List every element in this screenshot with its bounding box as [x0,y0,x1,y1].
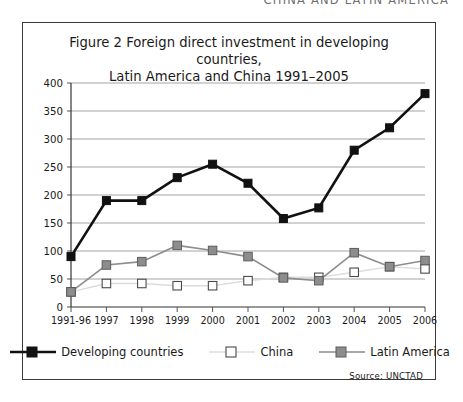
data-point-marker [386,124,394,132]
data-point-marker [138,257,147,266]
y-axis-tick-label: 0 [57,302,63,313]
data-point-marker [244,252,253,261]
data-point-marker [315,276,324,285]
x-axis-tick-label: 2006 [413,315,437,326]
data-point-marker [350,248,359,257]
data-point-marker [102,197,110,205]
x-axis-tick-label: 1998 [130,315,154,326]
figure-container: Figure 2 Foreign direct investment in de… [22,22,436,380]
x-axis-tick-label: 1997 [94,315,118,326]
data-point-marker [244,276,253,285]
x-axis-tick-label: 2002 [271,315,295,326]
y-axis-tick-label: 200 [44,190,63,201]
legend-label-developing-countries: Developing countries [61,345,183,359]
legend-swatch-latin-america [319,345,365,359]
y-axis-tick-label: 50 [50,274,63,285]
data-point-marker [208,246,217,255]
legend-item-china[interactable]: China [209,345,293,359]
plot-area: 0501001502002503003504001991-96199719981… [23,75,437,345]
data-point-marker [67,288,76,297]
data-point-marker [385,262,394,271]
legend-label-latin-america: Latin America [370,345,450,359]
data-point-marker [244,179,252,187]
data-point-marker [421,90,429,98]
figure-title-line-1: Figure 2 Foreign direct investment in de… [69,35,389,67]
y-axis-tick-label: 300 [44,134,63,145]
data-point-marker [173,241,182,250]
legend-label-china: China [260,345,293,359]
data-point-marker [138,197,146,205]
running-header: CHINA AND LATIN AMERICA [264,0,449,7]
data-point-marker [208,281,217,290]
x-axis-tick-label: 2000 [200,315,224,326]
x-axis-tick-label: 2004 [342,315,366,326]
chart-legend: Developing countries China Latin America [23,345,437,359]
legend-swatch-china [209,345,255,359]
data-point-marker [138,279,147,288]
y-axis-tick-label: 400 [44,78,63,89]
data-point-marker [350,146,358,154]
data-point-marker [279,274,288,283]
y-axis-tick-label: 350 [44,106,63,117]
data-point-marker [421,256,430,265]
legend-swatch-developing-countries [10,345,56,359]
y-axis-tick-label: 250 [44,162,63,173]
data-point-marker [102,279,111,288]
x-axis-tick-label: 2003 [307,315,331,326]
series-developing-countries [67,90,429,261]
data-point-marker [67,253,75,261]
x-axis-tick-label: 2005 [377,315,401,326]
data-point-marker [209,160,217,168]
source-note: Source: UNCTAD [349,371,423,381]
data-point-marker [102,261,111,270]
data-point-marker [421,265,430,274]
y-axis-tick-label: 100 [44,246,63,257]
data-point-marker [173,281,182,290]
series-line [71,94,425,257]
x-axis-tick-label: 1991-96 [51,315,91,326]
x-axis-tick-label: 1999 [165,315,189,326]
y-axis-tick-label: 150 [44,218,63,229]
data-point-marker [350,268,359,277]
legend-item-developing-countries[interactable]: Developing countries [10,345,183,359]
data-point-marker [279,215,287,223]
x-axis-tick-label: 2001 [236,315,260,326]
data-point-marker [173,174,181,182]
data-point-marker [315,204,323,212]
line-chart: 0501001502002503003504001991-96199719981… [23,75,437,345]
legend-item-latin-america[interactable]: Latin America [319,345,450,359]
